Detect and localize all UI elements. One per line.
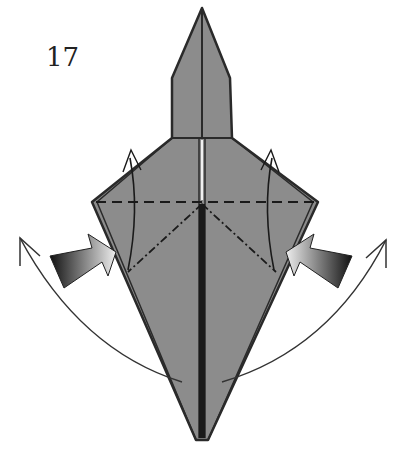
origami-diagram <box>0 0 402 453</box>
push-arrow-left-icon <box>50 234 116 288</box>
paper-model <box>92 8 318 440</box>
